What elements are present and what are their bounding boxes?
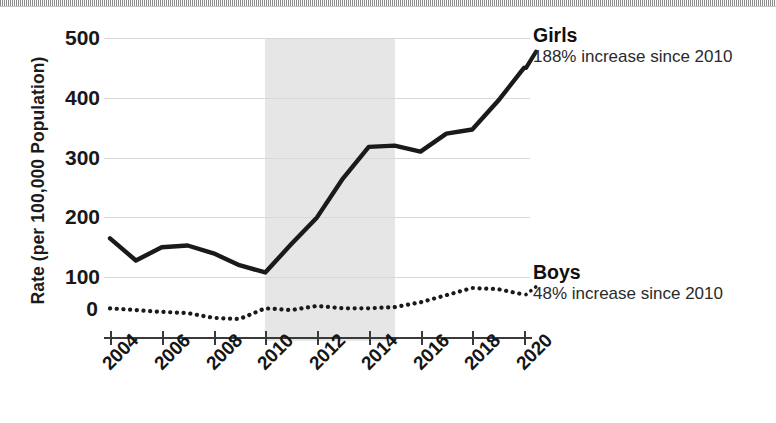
annotation-boys: Boys 48% increase since 2010 (533, 262, 723, 304)
chart-figure: Rate (per 100,000 Population) 1002003004… (0, 0, 776, 423)
annotation-boys-subtitle: 48% increase since 2010 (533, 284, 723, 304)
y-axis-tick-label: 400 (54, 87, 100, 108)
y-axis-tick-labels: 100200300400500 (40, 0, 100, 423)
plot-area (104, 30, 530, 341)
annotation-boys-title: Boys (533, 262, 723, 283)
y-axis-tick-label: 300 (54, 147, 100, 168)
annotation-girls-subtitle: 188% increase since 2010 (533, 47, 732, 67)
series-line-girls (110, 68, 524, 273)
series-line-boys (110, 288, 524, 319)
series-layer (104, 30, 530, 341)
y-axis-tick-label: 100 (54, 266, 100, 287)
y-axis-tick-label: 500 (54, 27, 100, 48)
y-axis-tick-label: 200 (54, 206, 100, 227)
annotation-girls-title: Girls (533, 25, 732, 46)
y-axis-tick-label-zero: 0 (66, 297, 98, 321)
annotation-girls: Girls 188% increase since 2010 (533, 25, 732, 67)
